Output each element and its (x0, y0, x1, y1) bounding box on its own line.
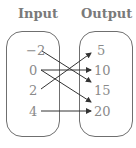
arrow-2-to-5 (41, 53, 91, 89)
arrow-0-to-20 (41, 70, 91, 102)
arrow-neg2-to-15 (42, 51, 91, 82)
mapping-arrows (0, 0, 136, 148)
